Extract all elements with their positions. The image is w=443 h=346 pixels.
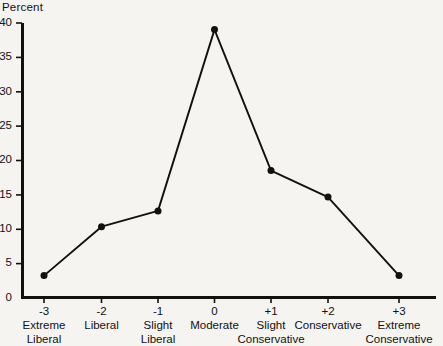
data-point — [396, 272, 403, 279]
y-axis-label-5: 5 — [0, 256, 12, 268]
x-category-line-1: Moderate — [190, 319, 239, 333]
x-category-moderate: Moderate — [190, 319, 239, 333]
data-point — [41, 272, 48, 279]
data-points — [41, 26, 403, 279]
x-axis-label-+3: +3 — [392, 305, 405, 317]
x-category-line-1: Liberal — [84, 319, 119, 333]
x-axis-label--2: -2 — [96, 305, 106, 317]
x-category-extreme-liberal: Extreme Liberal — [23, 319, 66, 346]
y-axis-label-25: 25 — [0, 119, 12, 131]
data-point — [325, 194, 332, 201]
x-category-line-2: Conservative — [237, 333, 304, 346]
x-category-line-2: Conservative — [365, 333, 432, 346]
y-axis-label-35: 35 — [0, 50, 12, 62]
x-category-line-1: Extreme — [365, 319, 432, 333]
x-axis-label--1: -1 — [153, 305, 163, 317]
y-axis-label-0: 0 — [0, 291, 12, 303]
data-point — [211, 26, 218, 33]
x-category-conservative: Conservative — [294, 319, 361, 333]
x-category-line-2: Liberal — [23, 333, 66, 346]
x-axis-label-+1: +1 — [264, 305, 277, 317]
y-axis-label-40: 40 — [0, 16, 12, 28]
x-category-line-1: Extreme — [23, 319, 66, 333]
data-point — [98, 223, 105, 230]
data-point — [155, 207, 162, 214]
y-axis-label-30: 30 — [0, 85, 12, 97]
y-axis-label-15: 15 — [0, 188, 12, 200]
x-category-line-2: Liberal — [141, 333, 176, 346]
x-axis-label-0: 0 — [211, 305, 217, 317]
y-axis-label-10: 10 — [0, 222, 12, 234]
x-category-slight-liberal: Slight Liberal — [141, 319, 176, 346]
data-point — [268, 167, 275, 174]
x-category-line-1: Slight — [141, 319, 176, 333]
x-axis-label--3: -3 — [39, 305, 49, 317]
x-category-extreme-conservative: Extreme Conservative — [365, 319, 432, 346]
x-axis-label-+2: +2 — [321, 305, 334, 317]
y-axis-label-20: 20 — [0, 153, 12, 165]
x-category-liberal: Liberal — [84, 319, 119, 333]
x-category-line-1: Conservative — [294, 319, 361, 333]
data-line — [44, 30, 399, 276]
